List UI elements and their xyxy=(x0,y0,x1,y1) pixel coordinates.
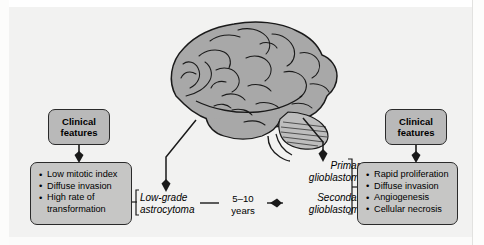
features-box-glioblastoma: Rapid proliferation Diffuse invasion Ang… xyxy=(357,162,458,225)
list-item: Low mitotic index xyxy=(39,169,124,181)
features-list-left: Low mitotic index Diffuse invasion High … xyxy=(39,169,124,215)
cf-right-line1: Clinical xyxy=(399,116,433,127)
connector-cf-left-to-features xyxy=(75,145,84,163)
scan-edge-right xyxy=(473,0,484,245)
diagram-canvas: secondary --> Clinical features Low mito… xyxy=(0,0,484,245)
cf-left-line1: Clinical xyxy=(62,116,96,127)
scan-edge-left xyxy=(0,0,9,245)
connector-brain-to-low-grade xyxy=(162,120,197,192)
list-item: Angiogenesis xyxy=(366,192,450,204)
secondary-line2: glioblastoma xyxy=(281,204,365,216)
primary-line2: glioblastoma xyxy=(287,172,365,184)
scan-rule-right xyxy=(472,0,473,245)
scan-edge-top xyxy=(0,0,484,7)
label-secondary-glioblastoma: Secondary glioblastoma xyxy=(281,192,365,216)
interval-line2: years xyxy=(221,205,265,217)
label-interval-years: 5–10 years xyxy=(221,193,265,217)
label-low-grade-astrocytoma: Low-grade astrocytoma xyxy=(140,192,194,216)
features-list-right: Rapid proliferation Diffuse invasion Ang… xyxy=(366,169,450,215)
scan-edge-bottom xyxy=(0,237,484,245)
cf-left-line2: features xyxy=(61,127,98,139)
low-grade-line2: astrocytoma xyxy=(140,204,194,216)
list-item-continuation: transformation xyxy=(39,204,124,216)
list-item: Cellular necrosis xyxy=(366,204,450,216)
clinical-features-header-left: Clinical features xyxy=(48,109,110,145)
features-box-low-grade: Low mitotic index Diffuse invasion High … xyxy=(30,162,132,225)
list-item: Diffuse invasion xyxy=(39,181,124,193)
bracket-left xyxy=(132,190,139,215)
primary-line1: Primary xyxy=(287,160,365,172)
low-grade-line1: Low-grade xyxy=(140,192,194,204)
interval-line1: 5–10 xyxy=(221,193,265,205)
cf-right-line2: features xyxy=(398,127,435,139)
secondary-line1: Secondary xyxy=(281,192,365,204)
list-item: Rapid proliferation xyxy=(366,169,450,181)
brain-lateral-view-icon xyxy=(171,22,337,161)
clinical-features-header-right: Clinical features xyxy=(385,109,447,145)
connector-cf-right-to-features xyxy=(412,145,421,163)
list-item: High rate of xyxy=(39,192,124,204)
list-item: Diffuse invasion xyxy=(366,181,450,193)
label-primary-glioblastoma: Primary glioblastoma xyxy=(287,160,365,184)
